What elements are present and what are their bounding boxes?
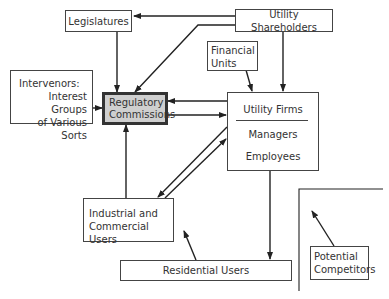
industrial-line-2: Commercial Users — [89, 220, 168, 246]
utility-firms-title: Utility Firms — [228, 103, 318, 116]
residential-users-node: Residential Users — [120, 260, 292, 281]
legislatures-label: Legislatures — [68, 15, 128, 28]
intervenors-line-1: Intervenors: — [16, 77, 87, 90]
financial-units-line-1: Financial — [211, 44, 254, 57]
financial-units-node: Financial Units — [207, 41, 258, 71]
legislatures-node: Legislatures — [65, 10, 132, 32]
utility-shareholders-node: Utility Shareholders — [235, 9, 333, 32]
regulatory-line-1: Regulatory — [109, 97, 161, 109]
potential-competitors-line-1: Potential — [314, 250, 365, 263]
intervenors-line-3: of Various Sorts — [16, 116, 87, 142]
utility-shareholders-label: Utility Shareholders — [236, 8, 332, 34]
utility-firms-employees: Employees — [228, 150, 318, 163]
intervenors-line-2: Interest Groups — [16, 90, 87, 116]
residential-users-label: Residential Users — [163, 264, 249, 277]
utility-firms-node: Utility Firms Managers Employees — [227, 92, 319, 171]
utility-firms-managers: Managers — [228, 128, 318, 141]
regulatory-line-2: Commissions — [109, 109, 161, 121]
industrial-commercial-node: Industrial and Commercial Users — [83, 198, 174, 242]
intervenors-node: Intervenors: Interest Groups of Various … — [10, 70, 93, 124]
financial-units-line-2: Units — [211, 57, 254, 70]
utility-firms-divider — [236, 120, 308, 121]
industrial-line-1: Industrial and — [89, 207, 168, 220]
potential-competitors-node: Potential Competitors — [310, 246, 369, 280]
potential-competitors-line-2: Competitors — [314, 263, 365, 276]
regulatory-commissions-node: Regulatory Commissions — [102, 92, 168, 125]
